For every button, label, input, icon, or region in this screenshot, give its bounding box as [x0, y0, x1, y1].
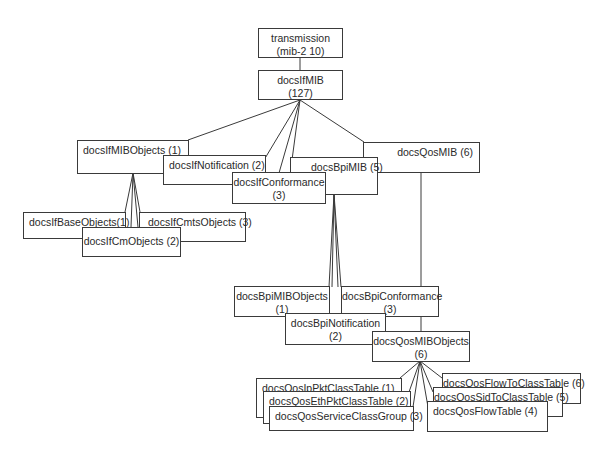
- node-label: docsIfCmObjects (2): [83, 235, 180, 248]
- node-docsqosflowtable: docsQosFlowTable (4): [427, 401, 548, 432]
- node-sublabel: (mib-2 10): [259, 45, 342, 58]
- node-sublabel: (127): [259, 87, 342, 100]
- node-docsifconformance: docsIfConformance (3): [232, 172, 326, 204]
- node-label: docsBpiNotification: [286, 317, 385, 330]
- node-label: transmission: [259, 32, 342, 45]
- node-label: docsQosFlowTable (4): [433, 405, 547, 418]
- node-label: docsIfConformance: [233, 176, 325, 189]
- node-docsifcmobjects: docsIfCmObjects (2): [82, 227, 181, 257]
- node-docsbpinotification: docsBpiNotification (2): [285, 313, 386, 345]
- node-label: docsQosMIBObjects: [373, 335, 469, 348]
- node-docsqosmibobjects: docsQosMIBObjects (6): [372, 331, 470, 362]
- node-sublabel: (3): [233, 189, 325, 202]
- node-docsqosserviceclassgroup: docsQosServiceClassGroup (3): [269, 406, 414, 431]
- node-sublabel: (2): [286, 330, 385, 343]
- node-label: docsBpiMIBObjects: [235, 290, 329, 303]
- node-label: docsQosMIB (6): [364, 146, 473, 159]
- node-label: docsIfNotification (2): [169, 159, 265, 172]
- node-transmission: transmission (mib-2 10): [258, 28, 343, 58]
- node-sublabel: (6): [373, 348, 469, 361]
- node-label: docsQosServiceClassGroup (3): [275, 410, 413, 423]
- node-label: docsIfMIB: [259, 74, 342, 87]
- node-label: docsBpiConformance: [342, 290, 438, 303]
- node-docsifmib: docsIfMIB (127): [258, 70, 343, 100]
